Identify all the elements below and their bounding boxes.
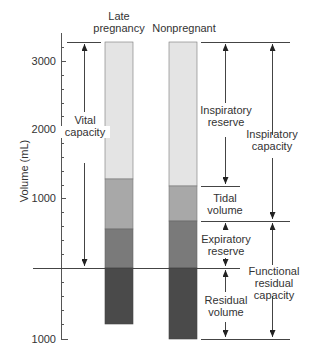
label-inspiratory-reserve-2: reserve [198, 116, 254, 128]
label-vital-capacity-1: Vital [64, 114, 106, 126]
bar-nonpregnant [169, 42, 197, 339]
lung-volume-diagram: 3000 2000 1000 1000 Volume (mL) Late pre… [0, 0, 310, 352]
label-vital-capacity-2: capacity [60, 126, 110, 138]
label-tidal-volume-1: Tidal [200, 192, 250, 204]
label-inspiratory-reserve-1: Inspiratory [198, 104, 254, 116]
label-frc-2: residual [244, 277, 304, 289]
y-tick-2000: 2000 [16, 123, 56, 135]
cropped-heading-fragment [0, 0, 310, 3]
label-expiratory-reserve-2: reserve [198, 245, 254, 257]
column-label-nonpregnant: Nonpregnant [151, 22, 217, 34]
label-expiratory-reserve-1: Expiratory [198, 233, 254, 245]
y-axis [61, 33, 68, 340]
label-residual-volume-2: volume [198, 306, 254, 318]
column-label-late-line2: pregnancy [89, 22, 149, 34]
column-label-late-line1: Late [99, 10, 139, 22]
label-inspiratory-capacity-1: Inspiratory [244, 128, 300, 140]
label-inspiratory-capacity-2: capacity [244, 140, 300, 152]
y-axis-title: Volume (mL) [18, 139, 30, 203]
y-tick-3000: 3000 [16, 55, 56, 67]
label-residual-volume-1: Residual [198, 294, 254, 306]
y-tick-1000-below: 1000 [16, 333, 56, 345]
label-frc-1: Functional [244, 265, 304, 277]
label-tidal-volume-2: volume [200, 204, 250, 216]
bar-late-pregnancy [105, 42, 133, 324]
